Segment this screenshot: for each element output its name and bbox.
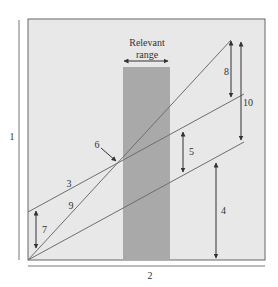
label-9: 9: [69, 200, 74, 211]
relevant-range-label-2: range: [136, 49, 159, 60]
label-8: 8: [224, 66, 229, 77]
x-axis-label: 2: [148, 270, 153, 281]
label-6: 6: [95, 139, 100, 150]
label-5: 5: [189, 146, 194, 157]
relevant-range-bar: [123, 67, 170, 260]
diagram-canvas: Relevant range 6 3 9 7 5 4 8 10 1 2: [0, 0, 278, 287]
label-7: 7: [42, 224, 47, 235]
label-4: 4: [221, 205, 226, 216]
label-3: 3: [67, 178, 72, 189]
cost-volume-diagram: Relevant range 6 3 9 7 5 4 8 10 1 2: [0, 0, 278, 287]
label-10: 10: [243, 97, 253, 108]
relevant-range-label-1: Relevant: [129, 37, 165, 48]
y-axis-label: 1: [10, 131, 15, 142]
